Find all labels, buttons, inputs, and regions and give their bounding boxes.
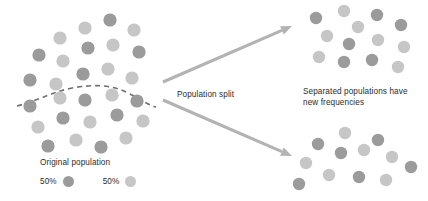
- allele-dot-light: [338, 5, 350, 17]
- allele-dot-light: [392, 61, 404, 73]
- allele-light-swatch: [125, 176, 136, 187]
- allele-dot-dark: [94, 140, 107, 153]
- legend-percent-label: 50%: [40, 177, 57, 186]
- separated-caption-line-2: new frequencies: [303, 98, 364, 107]
- legend-percent-label: 50%: [103, 177, 120, 186]
- allele-dot-light: [83, 115, 96, 128]
- legend-entry-0: 50%: [40, 176, 74, 187]
- allele-dot-light: [136, 114, 149, 127]
- allele-dot-dark: [343, 38, 355, 50]
- allele-dot-dark: [371, 9, 383, 21]
- allele-dot-dark: [41, 139, 54, 152]
- allele-dot-light: [300, 157, 312, 169]
- allele-dot-light: [127, 23, 140, 36]
- original-population: [23, 13, 149, 153]
- allele-dot-light: [339, 127, 351, 139]
- allele-dot-dark: [338, 56, 350, 68]
- allele-dot-light: [49, 77, 62, 90]
- separated-population-top: [310, 5, 410, 73]
- population-split-label: Population split: [177, 90, 234, 101]
- allele-dot-dark: [81, 41, 94, 54]
- arrow-to-top-population-shaft: [163, 30, 282, 82]
- allele-dot-light: [53, 91, 66, 104]
- allele-dot-light: [69, 133, 82, 146]
- separated-caption-line-1: Separated populations have: [303, 87, 408, 96]
- allele-dot-dark: [353, 171, 365, 183]
- arrow-to-bottom-population-shaft: [163, 100, 282, 152]
- allele-dot-light: [53, 31, 66, 44]
- allele-dot-dark: [405, 161, 417, 173]
- allele-dot-light: [372, 34, 384, 46]
- allele-dot-dark: [310, 12, 322, 24]
- original-population-label: Original population: [40, 158, 110, 169]
- allele-dot-dark: [366, 54, 378, 66]
- allele-dot-dark: [132, 45, 145, 58]
- allele-dot-light: [56, 54, 69, 67]
- allele-dot-light: [119, 131, 132, 144]
- population-split-diagram: Population split Separated populations h…: [0, 0, 428, 201]
- allele-dot-dark: [293, 178, 305, 190]
- allele-dot-light: [380, 174, 392, 186]
- allele-dot-light: [352, 21, 364, 33]
- allele-frequency-legend: 50%50%: [40, 176, 136, 187]
- allele-dark-swatch: [63, 176, 74, 187]
- allele-dot-light: [358, 144, 370, 156]
- allele-dot-dark: [23, 73, 36, 86]
- allele-dot-light: [313, 51, 325, 63]
- allele-dot-dark: [32, 48, 45, 61]
- allele-dot-light: [321, 30, 333, 42]
- legend-entry-1: 50%: [103, 176, 137, 187]
- allele-dot-dark: [372, 134, 384, 146]
- allele-dot-light: [105, 88, 118, 101]
- allele-dot-dark: [130, 94, 143, 107]
- separated-population-bottom: [293, 127, 417, 190]
- allele-dot-light: [398, 41, 410, 53]
- separated-populations-caption: Separated populations havenew frequencie…: [303, 87, 408, 108]
- allele-dot-light: [31, 120, 44, 133]
- allele-dot-light: [386, 151, 398, 163]
- allele-dot-dark: [103, 13, 116, 26]
- allele-dot-dark: [312, 138, 324, 150]
- allele-dot-dark: [395, 19, 407, 31]
- allele-dot-dark: [76, 67, 89, 80]
- allele-dot-light: [323, 169, 335, 181]
- allele-dot-light: [101, 62, 114, 75]
- allele-dot-dark: [110, 108, 123, 121]
- allele-dot-light: [106, 38, 119, 51]
- allele-dot-dark: [335, 147, 347, 159]
- allele-dot-dark: [78, 93, 91, 106]
- allele-dot-light: [125, 71, 138, 84]
- allele-dot-dark: [56, 111, 69, 124]
- allele-dot-light: [78, 21, 91, 34]
- allele-dot-dark: [23, 99, 36, 112]
